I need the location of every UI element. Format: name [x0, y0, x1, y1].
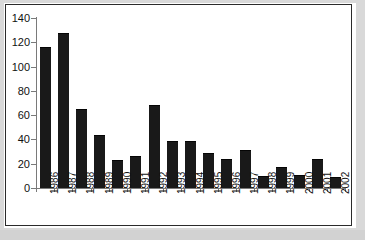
bar	[40, 47, 51, 188]
x-axis-tick-label: 2000	[304, 172, 315, 194]
x-axis-tick-label: 1989	[104, 172, 115, 194]
x-axis-tick-label: 1990	[122, 172, 133, 194]
x-axis-tick-label: 1998	[267, 172, 278, 194]
scan-edge-band	[0, 230, 365, 240]
x-axis-tick-label: 1995	[213, 172, 224, 194]
x-axis-line	[36, 188, 346, 189]
y-axis-tick-label: 0	[4, 183, 30, 193]
bar	[58, 33, 69, 188]
x-axis-tick	[36, 188, 37, 192]
x-axis-tick-label: 1988	[85, 172, 96, 194]
y-axis-tick-label: 40	[4, 134, 30, 144]
x-axis-tick-label: 1986	[49, 172, 60, 194]
x-axis-tick-label: 1996	[231, 172, 242, 194]
x-axis-tick-label: 1997	[249, 172, 260, 194]
y-axis-tick-label: 140	[4, 13, 30, 23]
x-axis-tick-label: 2001	[322, 172, 333, 194]
y-axis-tick-label: 100	[4, 62, 30, 72]
y-axis-tick-label: 120	[4, 37, 30, 47]
chart-page: 020406080100120140 198619871988198919901…	[0, 0, 365, 240]
x-axis-tick-label: 1994	[195, 172, 206, 194]
x-axis-tick-label: 1999	[285, 172, 296, 194]
y-axis-tick-labels: 020406080100120140	[0, 0, 30, 240]
x-axis-tick-label: 1993	[176, 172, 187, 194]
y-axis-tick-label: 60	[4, 110, 30, 120]
x-axis-tick-label: 1991	[140, 172, 151, 194]
y-axis-tick-label: 20	[4, 159, 30, 169]
x-axis-tick-label: 2002	[340, 172, 351, 194]
x-axis-tick-label: 1992	[158, 172, 169, 194]
x-axis-tick-label: 1987	[67, 172, 78, 194]
bar-series	[36, 18, 346, 188]
y-axis-tick-label: 80	[4, 86, 30, 96]
